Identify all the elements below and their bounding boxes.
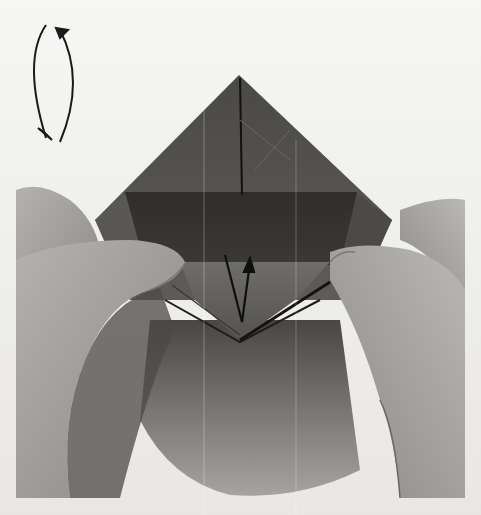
- origami-photo: [0, 0, 481, 515]
